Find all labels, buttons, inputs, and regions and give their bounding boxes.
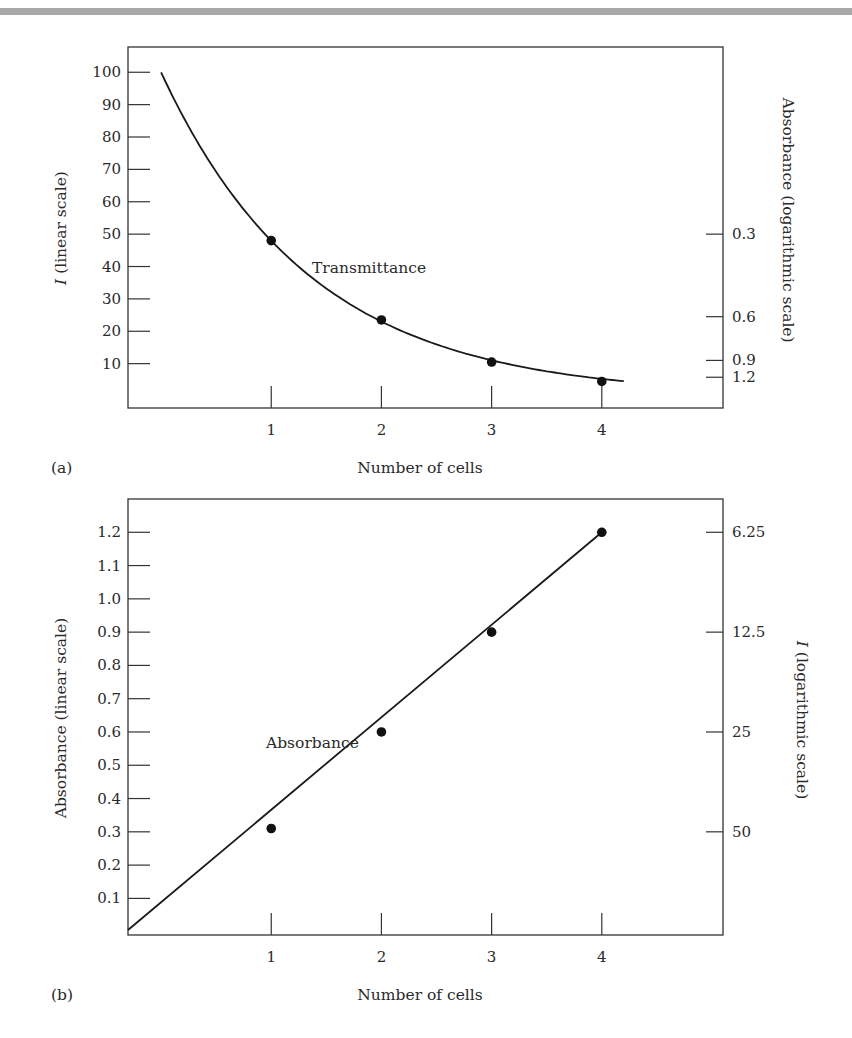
y-tick-label: 0.2 [97, 856, 121, 874]
y-tick-label: 1.2 [97, 523, 121, 541]
panel-b-y2-axis-title-text: (logarithmic scale) [793, 647, 811, 799]
data-point [266, 236, 276, 246]
y2-tick-label: 6.25 [732, 523, 765, 541]
transmittance-curve [161, 72, 624, 381]
y2-tick-label: 0.9 [732, 351, 756, 369]
y-tick-label: 1.1 [97, 557, 121, 575]
x-tick-label: 4 [597, 421, 607, 439]
panel-b: 1.21.11.00.90.80.70.60.50.40.30.20.1 6.2… [51, 499, 811, 1004]
y-tick-label: 70 [102, 160, 121, 178]
panel-b-y-axis-title: Absorbance (linear scale) [52, 618, 70, 820]
y-tick-label: 90 [102, 96, 121, 114]
data-point [487, 357, 497, 367]
panel-a: 100908070605040302010 0.30.60.91.2 1234 … [51, 47, 797, 477]
x-tick-label: 3 [487, 948, 497, 966]
x-tick-label: 3 [487, 421, 497, 439]
data-point [487, 627, 497, 637]
data-point [377, 315, 387, 325]
y-tick-label: 10 [102, 355, 121, 373]
y-tick-label: 40 [102, 258, 121, 276]
y-tick-label: 0.7 [97, 690, 121, 708]
panel-b-label: (b) [51, 986, 73, 1004]
y-tick-label: 0.8 [97, 656, 121, 674]
panel-a-y2-axis-title: Absorbance (logarithmic scale) [779, 96, 797, 342]
transmittance-annotation: Transmittance [312, 259, 426, 277]
x-tick-label: 4 [597, 948, 607, 966]
x-tick-label: 1 [266, 948, 276, 966]
panel-a-x-axis-title: Number of cells [357, 459, 482, 477]
data-point [597, 377, 607, 387]
x-tick-label: 2 [377, 421, 387, 439]
y-tick-label: 50 [102, 225, 121, 243]
y-tick-label: 100 [92, 63, 121, 81]
panel-a-y-axis-title-text: (linear scale) [52, 171, 70, 279]
data-point [266, 824, 276, 834]
y-tick-label: 0.1 [97, 889, 121, 907]
y-tick-label: 0.4 [97, 790, 121, 808]
y2-tick-label: 12.5 [732, 623, 765, 641]
y2-tick-label: 0.6 [732, 308, 756, 326]
panel-b-frame [128, 499, 723, 935]
panel-a-label: (a) [51, 459, 72, 477]
figure: 100908070605040302010 0.30.60.91.2 1234 … [0, 0, 852, 1038]
y-tick-label: 0.9 [97, 623, 121, 641]
y-tick-label: 1.0 [97, 590, 121, 608]
y-tick-label: 0.3 [97, 823, 121, 841]
y2-tick-label: 0.3 [732, 225, 756, 243]
x-tick-label: 2 [377, 948, 387, 966]
absorbance-annotation: Absorbance [265, 734, 359, 752]
y-tick-label: 30 [102, 290, 121, 308]
panel-b-x-axis-title: Number of cells [357, 986, 482, 1004]
y2-tick-label: 25 [732, 723, 751, 741]
panel-a-y-axis-title: I (linear scale) [52, 171, 70, 286]
y2-tick-label: 1.2 [732, 368, 756, 386]
y-tick-label: 0.6 [97, 723, 121, 741]
y2-tick-label: 50 [732, 823, 751, 841]
panel-b-y2-axis-title: I (logarithmic scale) [793, 640, 811, 799]
y-tick-label: 20 [102, 322, 121, 340]
y-tick-label: 0.5 [97, 756, 121, 774]
x-tick-label: 1 [266, 421, 276, 439]
y-tick-label: 80 [102, 128, 121, 146]
data-point [597, 527, 607, 537]
y-tick-label: 60 [102, 193, 121, 211]
absorbance-line [128, 532, 602, 930]
data-point [377, 727, 387, 737]
panel-a-frame [128, 47, 723, 408]
